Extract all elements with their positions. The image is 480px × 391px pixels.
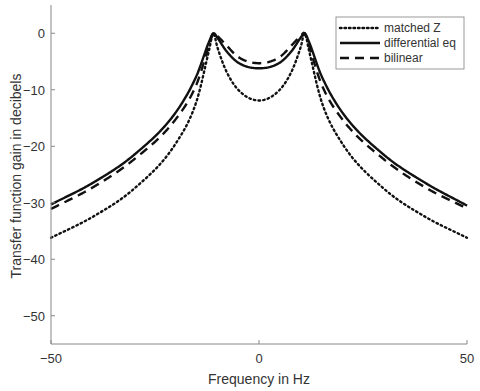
legend-label-bilinear: bilinear xyxy=(384,51,423,65)
chart: 0−10−20−30−40−50 −50050 Frequency in Hz … xyxy=(0,0,480,391)
legend-label-matched-z: matched Z xyxy=(384,21,441,35)
y-axis-label: Transfer function gain in decibels xyxy=(8,74,24,279)
y-tick-label: 0 xyxy=(38,26,45,41)
y-ticks: 0−10−20−30−40−50 xyxy=(23,26,55,324)
legend-label-differential-eq: differential eq xyxy=(384,36,456,50)
y-tick-label: −30 xyxy=(23,196,45,211)
x-tick-label: 50 xyxy=(460,351,474,366)
legend: matched Z differential eq bilinear xyxy=(336,17,464,69)
x-axis-label: Frequency in Hz xyxy=(208,371,310,387)
y-tick-label: −40 xyxy=(23,252,45,267)
y-tick-label: −10 xyxy=(23,83,45,98)
x-tick-label: 0 xyxy=(255,351,262,366)
y-tick-label: −20 xyxy=(23,139,45,154)
x-tick-label: −50 xyxy=(40,351,62,366)
y-tick-label: −50 xyxy=(23,309,45,324)
